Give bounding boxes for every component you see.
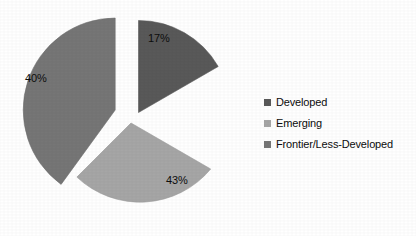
pie-label-emerging: 43% xyxy=(166,175,188,186)
pie-svg xyxy=(0,0,255,236)
legend-item-frontier[interactable]: Frontier/Less-Developed xyxy=(264,134,416,155)
legend-label-frontier: Frontier/Less-Developed xyxy=(276,138,393,151)
legend-swatch-icon-frontier xyxy=(264,141,271,148)
legend-swatch-icon-emerging xyxy=(264,120,271,127)
pie-label-frontier: 40% xyxy=(25,73,47,84)
legend-label-emerging: Emerging xyxy=(276,117,322,130)
legend-item-developed[interactable]: Developed xyxy=(264,92,416,113)
pie-plot-area: 17% 40% 43% xyxy=(0,0,255,236)
pie-chart-figure: 17% 40% 43% Developed Emerging Frontier/… xyxy=(0,0,416,236)
legend-label-developed: Developed xyxy=(276,96,327,109)
legend-item-emerging[interactable]: Emerging xyxy=(264,113,416,134)
legend-swatch-icon-developed xyxy=(264,99,271,106)
pie-label-developed: 17% xyxy=(148,33,170,44)
chart-legend: Developed Emerging Frontier/Less-Develop… xyxy=(264,92,416,155)
